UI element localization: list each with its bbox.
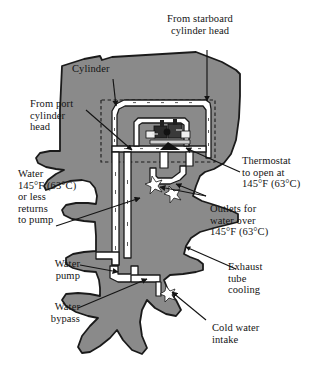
label-outlets-for-water-over: Outlets for water over 145°F (63°C) xyxy=(210,203,268,238)
diagram-canvas: From starboard cylinder head Cylinder Fr… xyxy=(0,0,312,377)
label-water-returns-to-pump: Water 145°F (63°C) or less returns to pu… xyxy=(18,168,76,226)
thermostat-outlet-stack xyxy=(160,152,168,168)
label-water-bypass: Water bypass xyxy=(14,301,80,324)
label-from-port-cylinder-head: From port cylinder head xyxy=(30,98,73,133)
label-exhaust-tube-cooling: Exhaust tube cooling xyxy=(228,261,263,296)
label-thermostat: Thermostat to open at 145°F (63°C) xyxy=(242,155,300,190)
cold-water-intake-gallery xyxy=(131,275,160,282)
label-cold-water-intake: Cold water intake xyxy=(212,322,259,345)
label-cylinder: Cylinder xyxy=(72,63,110,75)
label-from-starboard-cylinder-head: From starboard cylinder head xyxy=(148,13,252,36)
label-water-pump: Water pump xyxy=(18,258,80,281)
outlet-port-right xyxy=(186,152,193,166)
